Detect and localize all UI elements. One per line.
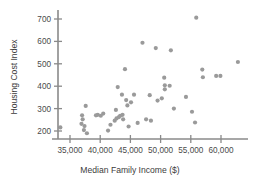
data-point bbox=[172, 107, 176, 111]
data-point bbox=[163, 87, 167, 91]
x-tick-label: 60,000 bbox=[208, 146, 233, 155]
data-point bbox=[121, 117, 125, 121]
data-point bbox=[114, 108, 118, 112]
data-point bbox=[149, 119, 153, 123]
y-tick-label: 200 bbox=[37, 127, 51, 136]
x-tick-label: 35,000 bbox=[57, 146, 82, 155]
data-point bbox=[148, 93, 152, 97]
data-point bbox=[169, 48, 173, 52]
y-tick-label: 600 bbox=[37, 37, 51, 46]
x-axis-ticks: 35,00040,00045,00050,00055,00060,000 bbox=[57, 135, 233, 155]
data-point bbox=[163, 83, 167, 87]
data-point bbox=[80, 113, 84, 117]
data-point bbox=[84, 104, 88, 108]
x-tick-label: 40,000 bbox=[88, 146, 113, 155]
data-point bbox=[190, 110, 194, 114]
data-point bbox=[162, 76, 166, 80]
scatter-plot-figure: 200300400500600700 35,00040,00045,00050,… bbox=[0, 0, 260, 179]
data-point bbox=[120, 93, 124, 97]
y-axis-title: Housing Cost Index bbox=[9, 39, 19, 115]
data-point bbox=[200, 68, 204, 72]
data-point bbox=[116, 85, 120, 89]
data-point bbox=[236, 60, 240, 64]
data-point bbox=[184, 95, 188, 99]
data-point bbox=[108, 123, 112, 127]
y-tick-label: 300 bbox=[37, 105, 51, 114]
y-tick-label: 700 bbox=[37, 15, 51, 24]
data-point bbox=[126, 124, 130, 128]
data-point bbox=[82, 124, 86, 128]
data-point bbox=[123, 67, 127, 71]
data-point bbox=[144, 117, 148, 121]
y-tick-label: 500 bbox=[37, 60, 51, 69]
data-point bbox=[214, 74, 218, 78]
data-point bbox=[82, 128, 86, 132]
data-point bbox=[132, 93, 136, 97]
chart-canvas: 200300400500600700 35,00040,00045,00050,… bbox=[0, 0, 260, 179]
data-point bbox=[136, 121, 140, 125]
data-point bbox=[101, 111, 105, 115]
data-point bbox=[168, 84, 172, 88]
data-point bbox=[124, 98, 128, 102]
x-tick-label: 45,000 bbox=[118, 146, 143, 155]
data-point bbox=[129, 100, 133, 104]
x-tick-label: 55,000 bbox=[178, 146, 203, 155]
data-point bbox=[193, 120, 197, 124]
data-point bbox=[120, 113, 124, 117]
data-point bbox=[194, 16, 198, 20]
data-point bbox=[125, 103, 129, 107]
x-axis-title: Median Family Income ($) bbox=[80, 165, 179, 175]
data-point bbox=[140, 41, 144, 45]
data-points-layer bbox=[58, 16, 240, 136]
data-point bbox=[154, 46, 158, 50]
data-point bbox=[85, 131, 89, 135]
y-tick-label: 400 bbox=[37, 82, 51, 91]
data-point bbox=[218, 74, 222, 78]
data-point bbox=[81, 117, 85, 121]
data-point bbox=[160, 96, 164, 100]
data-point bbox=[58, 125, 62, 129]
data-point bbox=[106, 128, 110, 132]
data-point bbox=[201, 75, 205, 79]
x-tick-label: 50,000 bbox=[148, 146, 173, 155]
data-point bbox=[155, 98, 159, 102]
